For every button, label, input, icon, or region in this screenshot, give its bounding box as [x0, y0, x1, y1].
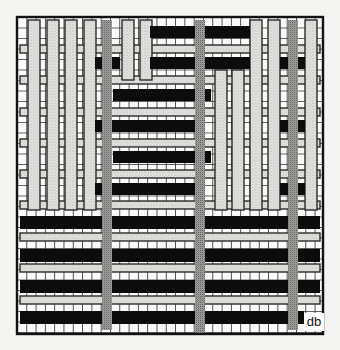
light-warp: [65, 20, 77, 210]
light-warp: [84, 20, 96, 210]
signature-label: db: [304, 313, 324, 331]
dark-warp: [195, 305, 205, 333]
black-bar: [20, 311, 304, 324]
light-warp: [122, 20, 134, 80]
light-warp: [305, 20, 317, 210]
black-bar: [20, 249, 320, 262]
dark-warp: [102, 274, 112, 302]
weave-diagram: [0, 0, 340, 350]
dark-warp: [102, 80, 112, 110]
light-warp: [215, 70, 227, 210]
light-weft: [20, 233, 320, 241]
light-warp: [268, 20, 280, 210]
light-weft: [20, 264, 320, 272]
light-warp: [232, 70, 244, 210]
black-bar: [20, 216, 320, 229]
dark-warp: [288, 210, 298, 238]
dark-warp: [102, 210, 112, 238]
dark-warp: [195, 243, 205, 271]
light-warp: [250, 20, 262, 210]
dark-warp: [288, 274, 298, 302]
light-warp: [47, 20, 59, 210]
light-warp: [28, 20, 40, 210]
light-weft: [20, 296, 320, 304]
black-bar: [20, 280, 320, 293]
dark-warp: [195, 50, 205, 78]
